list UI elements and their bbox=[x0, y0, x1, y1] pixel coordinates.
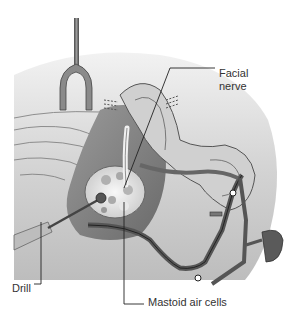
drill-label: Drill bbox=[12, 282, 31, 295]
mastoid-air-cells-label: Mastoid air cells bbox=[148, 296, 227, 309]
facial-nerve-label-line2: nerve bbox=[219, 80, 279, 93]
mastoid-bone bbox=[85, 166, 145, 218]
facial-nerve-label-line1: Facial bbox=[219, 67, 279, 80]
mastoidectomy-illustration bbox=[0, 0, 289, 322]
facial-nerve-label: Facial nerve bbox=[219, 67, 279, 93]
